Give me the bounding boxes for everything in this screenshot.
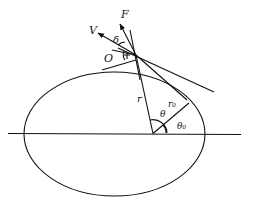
label-theta: θ <box>160 109 166 119</box>
delta-arc <box>118 42 125 45</box>
apse-line <box>8 134 241 135</box>
label-delta: δ <box>113 34 119 45</box>
label-F: F <box>120 8 129 21</box>
label-V: V <box>89 24 98 37</box>
label-theta0: θ₀ <box>177 121 186 131</box>
label-r0: r₀ <box>168 99 176 109</box>
label-r: r <box>137 93 143 104</box>
local-line <box>136 55 187 100</box>
orbit-diagram: V F δ O r r₀ θ θ₀ <box>0 0 256 213</box>
label-O: O <box>104 52 113 65</box>
